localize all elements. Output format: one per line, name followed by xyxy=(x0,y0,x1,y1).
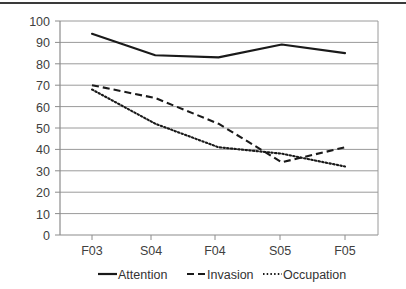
legend-label-invasion: Invasion xyxy=(207,268,254,282)
x-tick-label: F04 xyxy=(204,244,226,258)
y-tick-label: 0 xyxy=(43,229,50,243)
chart-container: 100 90 80 70 60 50 40 30 20 10 0 F03 S04… xyxy=(0,0,406,289)
x-tick-label: S04 xyxy=(140,244,162,258)
y-tick-label: 70 xyxy=(36,79,50,93)
y-tick-label: 50 xyxy=(36,122,50,136)
line-chart: 100 90 80 70 60 50 40 30 20 10 0 F03 S04… xyxy=(0,0,406,289)
series-line-invasion xyxy=(92,85,345,162)
y-tick-label: 60 xyxy=(36,101,50,115)
data-series-group xyxy=(92,34,345,167)
x-axis-labels: F03 S04 F04 S05 F05 xyxy=(81,244,356,258)
y-tick-label: 10 xyxy=(36,208,50,222)
y-axis-labels: 100 90 80 70 60 50 40 30 20 10 0 xyxy=(29,15,50,243)
x-tick-label: S05 xyxy=(269,244,291,258)
chart-legend: Attention Invasion Occupation xyxy=(98,268,346,282)
x-tick-label: F03 xyxy=(81,244,103,258)
y-tick-label: 90 xyxy=(36,36,50,50)
legend-label-attention: Attention xyxy=(118,268,167,282)
y-tick-label: 40 xyxy=(36,143,50,157)
y-axis-tickmarks xyxy=(55,21,60,235)
y-tick-label: 30 xyxy=(36,165,50,179)
legend-label-occupation: Occupation xyxy=(283,268,346,282)
y-tick-label: 20 xyxy=(36,186,50,200)
gridlines xyxy=(60,21,378,214)
y-tick-label: 80 xyxy=(36,58,50,72)
y-tick-label: 100 xyxy=(29,15,50,29)
x-tick-label: F05 xyxy=(334,244,356,258)
x-axis-tickmarks xyxy=(92,235,345,240)
series-line-attention xyxy=(92,34,345,58)
